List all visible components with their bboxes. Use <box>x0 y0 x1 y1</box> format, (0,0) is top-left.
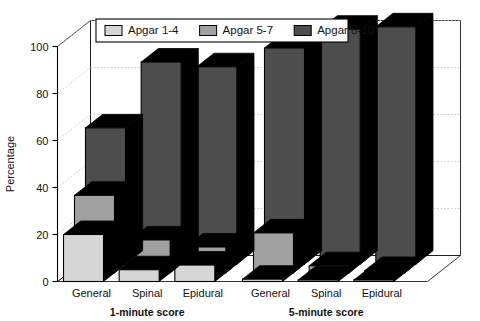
bar-3d <box>376 13 433 264</box>
legend-swatch <box>294 26 311 36</box>
x-axis-tick-label: Epidural <box>183 287 223 299</box>
y-axis-group: 020406080100 <box>30 41 57 288</box>
y-axis-title: Percentage <box>4 136 16 192</box>
x-axis-tick-label: Epidural <box>362 287 402 299</box>
y-axis-tick-label: 80 <box>36 88 48 100</box>
x-axis-tick-label: Spinal <box>311 287 342 299</box>
x-axis-tick-label: Spinal <box>132 287 163 299</box>
x-axis-labels-group: GeneralSpinalEpiduralGeneralSpinalEpidur… <box>72 287 402 299</box>
legend-label: Apgar 8-10 <box>317 24 374 36</box>
bar-front-face <box>119 270 159 282</box>
legend-label: Apgar 5-7 <box>223 24 274 36</box>
y-axis-tick-label: 40 <box>36 182 48 194</box>
y-axis-tick-label: 20 <box>36 229 48 241</box>
bar-front-face <box>175 265 215 281</box>
x-axis-tick-label: General <box>72 287 111 299</box>
bar-front-face <box>320 29 360 264</box>
bar-front-face <box>376 27 416 264</box>
bar-front-face <box>243 279 283 281</box>
apgar-score-3d-bar-chart: 020406080100PercentageGeneralSpinalEpidu… <box>0 0 480 321</box>
group-labels-group: 1-minute score5-minute score <box>110 306 364 318</box>
legend-label: Apgar 1-4 <box>128 24 179 36</box>
bar-front-face <box>64 235 104 282</box>
legend-swatch <box>200 26 217 36</box>
legend: Apgar 1-4Apgar 5-7Apgar 8-10 <box>96 19 374 42</box>
bar-side-face <box>237 53 254 264</box>
bar-3d <box>320 16 377 265</box>
y-axis-tick-label: 0 <box>42 276 48 288</box>
y-axis-tick-label: 100 <box>30 41 48 53</box>
bar-front-face <box>298 280 338 282</box>
group-label: 5-minute score <box>289 306 364 318</box>
y-axis-tick-label: 60 <box>36 135 48 147</box>
bar-3d <box>64 221 121 282</box>
bar-3d <box>197 53 254 264</box>
bar-side-face <box>360 16 377 265</box>
group-label: 1-minute score <box>110 306 185 318</box>
bar-front-face <box>354 280 394 282</box>
bar-side-face <box>416 13 433 264</box>
bar-3d <box>254 219 311 272</box>
chart-container: 020406080100PercentageGeneralSpinalEpidu… <box>0 0 480 321</box>
x-axis-tick-label: General <box>251 287 290 299</box>
legend-swatch <box>105 26 122 36</box>
